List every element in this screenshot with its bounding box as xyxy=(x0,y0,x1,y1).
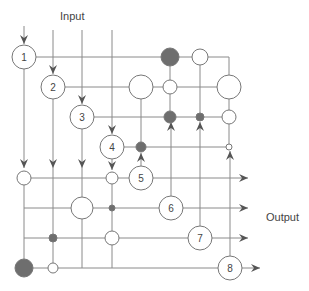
svg-text:4: 4 xyxy=(109,142,115,153)
junction-node xyxy=(17,171,31,185)
junction-node-dark xyxy=(109,205,115,211)
processor-5: 5 xyxy=(129,166,153,190)
junction-node xyxy=(106,172,118,184)
junction-node xyxy=(163,80,177,94)
svg-text:7: 7 xyxy=(197,233,203,244)
svg-text:2: 2 xyxy=(50,82,56,93)
junction-node-dark xyxy=(161,48,179,66)
junction-node xyxy=(105,231,119,245)
junction-node xyxy=(71,197,93,219)
input-label: Input xyxy=(60,10,84,22)
processor-2: 2 xyxy=(41,75,65,99)
processor-nodes: 1 2 3 4 5 6 7 8 xyxy=(12,45,242,280)
svg-text:6: 6 xyxy=(168,203,174,214)
processor-7: 7 xyxy=(188,226,212,250)
junction-node xyxy=(48,263,58,273)
svg-text:8: 8 xyxy=(227,263,233,274)
processor-8: 8 xyxy=(218,256,242,280)
processor-6: 6 xyxy=(159,196,183,220)
processor-4: 4 xyxy=(100,135,124,159)
junction-node-dark xyxy=(136,142,146,152)
svg-text:3: 3 xyxy=(79,112,85,123)
systolic-array-diagram: Input Output xyxy=(0,0,309,291)
output-label: Output xyxy=(266,211,299,223)
junction-node-dark xyxy=(15,259,33,277)
junction-node xyxy=(192,49,208,65)
junction-node-dark xyxy=(196,113,204,121)
processor-1: 1 xyxy=(12,45,36,69)
junction-node-dark xyxy=(49,234,57,242)
svg-text:5: 5 xyxy=(138,173,144,184)
junction-node xyxy=(129,75,153,99)
junction-node xyxy=(226,144,232,150)
junction-node-dark xyxy=(164,111,176,123)
junction-node xyxy=(217,75,241,99)
svg-text:1: 1 xyxy=(21,52,27,63)
processor-3: 3 xyxy=(70,105,94,129)
junction-node xyxy=(222,110,236,124)
